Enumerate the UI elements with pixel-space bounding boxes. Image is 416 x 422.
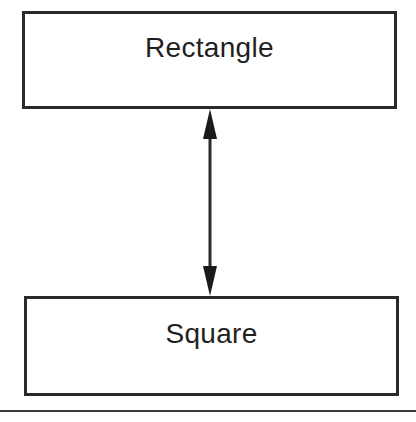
arrowhead-down-icon (203, 266, 217, 296)
arrowhead-up-icon (203, 109, 217, 139)
square-node-label: Square (27, 320, 396, 348)
bottom-divider (0, 410, 416, 412)
rectangle-node: Rectangle (22, 11, 397, 109)
square-node: Square (24, 296, 399, 396)
rectangle-node-label: Rectangle (25, 34, 394, 62)
